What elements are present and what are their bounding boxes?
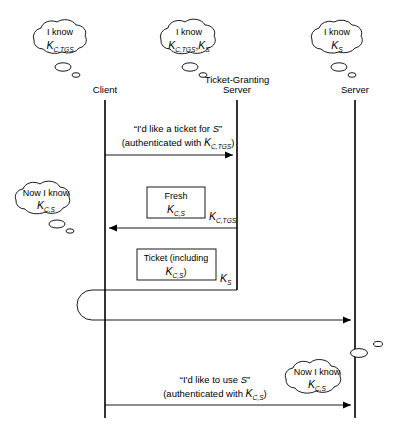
msgbox-fresh-key-line1: Fresh [164,191,187,201]
diagram-canvas: I know KC,TGS I know KC,TGS,KS I know KS [0,0,393,430]
msg-service-request-line2-pre: (authenticated with [163,388,245,399]
msg-service-request-line1-pre: “I'd like to use [180,374,241,385]
actor-label-tgs-line2: Server [223,84,251,95]
msgbox-fresh-key-outer-key: KC,TGS [209,210,237,224]
msg-ticket-request-line1-pre: “I'd like a ticket for [134,123,213,134]
thought-cloud-client-learned: Now I know KC,S [15,181,74,233]
msg-ticket-request-line2: (authenticated with KC,TGS) [122,136,235,150]
cloud-server-learned-key-sub: C,S [315,385,327,392]
msg-service-request-line2: (authenticated with KC,S) [163,387,267,401]
thought-cloud-server-knows: I know KS [311,20,362,77]
msg-ticket-request-key-sub: C,TGS [211,143,232,150]
msgbox-ticket-outer-key-sub: S [227,279,232,286]
msgbox-fresh-key-key-sub: C,S [174,210,186,217]
msgbox-fresh-key-outer-key-sub: C,TGS [216,217,237,224]
arrow-ticket-relay-loop [77,290,351,320]
cloud-tgs-knows-key2-sub: S [205,46,210,53]
message-fresh-key: Fresh KC,S KC,TGS [109,187,237,228]
msg-service-request-line1-post: ” [247,374,250,385]
cloud-tgs-knows-line1: I know [176,27,203,37]
cloud-server-learned-line1: Now I know [294,367,341,377]
message-ticket-request: “I'd like a ticket for S” (authenticated… [105,123,234,155]
actor-label-client: Client [93,84,118,95]
cloud-tgs-knows-key1-sub: C,TGS [175,46,196,53]
msg-ticket-request-line1: “I'd like a ticket for S” [134,123,222,134]
cloud-client-learned-key-sub: C,S [44,206,56,213]
cloud-client-knows-key-sub: C,TGS [53,46,74,53]
cloud-server-knows-key-sub: S [338,46,343,53]
msgbox-ticket-outer-key: KS [220,272,232,286]
cloud-client-knows-line1: I know [47,27,74,37]
thought-cloud-client-knows: I know KC,TGS [33,20,86,78]
kerberos-sequence-diagram: I know KC,TGS I know KC,TGS,KS I know KS [0,0,393,430]
msg-service-request-key-sub: C,S [253,394,265,401]
msg-service-request-line2-post: ) [264,388,267,399]
cloud-client-learned-line1: Now I know [23,188,70,198]
actor-label-server: Server [341,84,369,95]
message-ticket: Ticket (including KC,S) KS [77,249,351,320]
msg-ticket-request-line2-post: ) [231,137,234,148]
thought-cloud-tgs-knows: I know KC,TGS,KS [160,19,215,77]
msg-service-request-line1: “I'd like to use S” [180,374,250,385]
msg-ticket-request-line1-post: ” [219,123,222,134]
msgbox-ticket-key-sub: C,S [173,272,185,279]
msgbox-ticket-line2-post: ) [184,267,187,277]
cloud-server-knows-line1: I know [324,27,351,37]
thought-cloud-server-learned: Now I know KC,S [285,341,382,393]
msgbox-ticket-line1: Ticket (including [144,253,209,263]
msg-ticket-request-line2-pre: (authenticated with [122,137,204,148]
